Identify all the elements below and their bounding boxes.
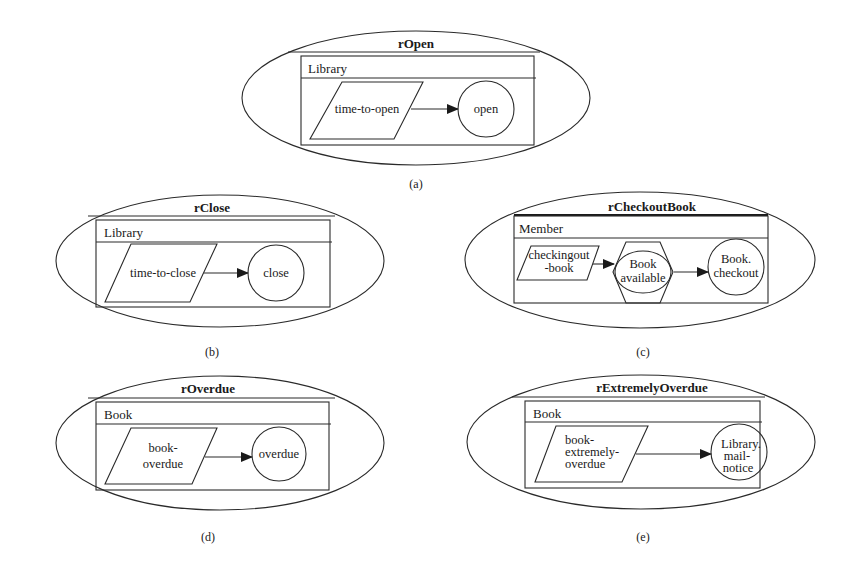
class-label: Member xyxy=(519,221,564,236)
event-label: time-to-open xyxy=(335,102,400,116)
caption: (b) xyxy=(205,345,219,359)
event-label: time-to-close xyxy=(130,266,196,280)
rule-title: rOverdue xyxy=(181,381,235,396)
action-label: overdue xyxy=(259,447,300,461)
event-label-line2: overdue xyxy=(143,457,184,471)
class-label: Library xyxy=(308,61,347,76)
class-label: Library xyxy=(104,225,143,240)
action-label-line1: Book. xyxy=(721,252,751,266)
action-label-line2: checkout xyxy=(713,266,759,280)
event-label-line1: book- xyxy=(148,441,177,455)
condition-label-line2: available xyxy=(620,271,666,285)
caption: (c) xyxy=(636,345,649,359)
event-parallelogram xyxy=(105,428,217,484)
event-label-line3: overdue xyxy=(565,457,606,471)
caption: (e) xyxy=(636,530,649,544)
caption: (a) xyxy=(409,177,422,191)
action-label-line3: notice xyxy=(723,461,754,475)
rule-title: rExtremelyOverdue xyxy=(596,380,708,395)
caption: (d) xyxy=(201,530,215,544)
rule-title: rClose xyxy=(194,200,230,215)
rule-diagram-rextremelyoverdue: rExtremelyOverdue Book book- extremely- … xyxy=(467,375,815,544)
event-label-line2: -book xyxy=(544,261,574,275)
rule-title: rCheckoutBook xyxy=(608,199,697,214)
rule-diagram-ropen: rOpen Library time-to-open open (a) xyxy=(242,31,590,191)
rule-diagram-roverdue: rOverdue Book book- overdue overdue (d) xyxy=(56,376,384,544)
rule-diagram-rclose: rClose Library time-to-close close (b) xyxy=(56,195,384,359)
class-label: Book xyxy=(104,407,133,422)
rule-title: rOpen xyxy=(398,36,435,51)
condition-label-line1: Book xyxy=(629,257,657,271)
class-label: Book xyxy=(533,406,562,421)
action-label: close xyxy=(263,266,289,280)
rule-diagram-rcheckoutbook: rCheckoutBook Member checkingout -book B… xyxy=(465,192,815,359)
event-label-line1: checkingout xyxy=(528,248,590,262)
action-label: open xyxy=(474,102,499,116)
